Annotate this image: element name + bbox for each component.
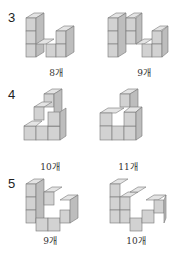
answer-5b: 10개 (116, 234, 156, 247)
answer-5a: 9개 (30, 234, 70, 247)
problem-5-number: 5 (8, 176, 15, 191)
cube-stack-figure-5a (24, 178, 94, 233)
cube-stack-figure-3b (106, 10, 181, 62)
answer-4b: 11개 (108, 160, 148, 173)
cube-stack-figure-4b (98, 88, 153, 158)
cube-stack-figure-5b (108, 178, 183, 233)
cube-stack-figure-4a (22, 88, 77, 158)
answer-3a: 8개 (36, 66, 76, 79)
answer-4a: 10개 (30, 160, 70, 173)
problem-3-number: 3 (8, 10, 15, 25)
problem-4-number: 4 (8, 87, 15, 102)
cube-stack-figure-3a (24, 10, 94, 62)
answer-3b: 9개 (124, 66, 164, 79)
